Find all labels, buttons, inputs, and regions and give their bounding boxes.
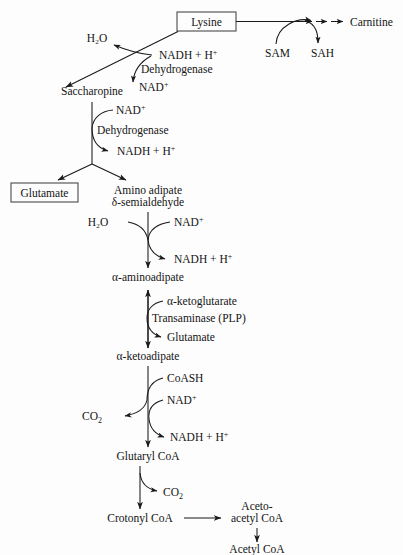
node-glutamate-box[interactable]: Glutamate bbox=[11, 183, 78, 202]
node-crotonyl-coa-label[interactable]: Crotonyl CoA bbox=[107, 512, 173, 525]
pathway-svg: Lysine Carnitine SAM SAH H₂O bbox=[0, 0, 403, 555]
cofactor-nad-2-label: NAD+ bbox=[116, 103, 146, 116]
cofactor-nad-1-label: NAD+ bbox=[139, 80, 169, 93]
cofactor-coash-label: CoASH bbox=[167, 372, 203, 384]
node-saccharopine-label[interactable]: Saccharopine bbox=[61, 85, 123, 98]
node-alpha-aminoadipate-label[interactable]: α-aminoadipate bbox=[112, 271, 184, 284]
node-lysine-label: Lysine bbox=[191, 16, 222, 29]
cofactor-curve-nadh-4-out bbox=[149, 419, 164, 437]
cofactor-curve-nad-3-in bbox=[148, 222, 170, 240]
cofactor-curve-nad-4-in bbox=[149, 400, 163, 419]
cofactor-curve-coash-in bbox=[147, 378, 163, 400]
cofactor-nadh-h-3-label: NADH + H+ bbox=[174, 252, 233, 265]
cofactor-nadh-h-2-label: NADH + H+ bbox=[117, 144, 176, 157]
cofactor-curve-co2-2-out bbox=[140, 473, 157, 491]
cofactor-h2o-2-label: H₂O bbox=[88, 216, 109, 228]
edge-branch-to-amino-adipate bbox=[92, 164, 126, 180]
pathway-diagram: Lysine Carnitine SAM SAH H₂O bbox=[0, 0, 403, 555]
cofactor-curve-sam-sah bbox=[276, 20, 318, 44]
cofactor-glutamate-product-label: Glutamate bbox=[167, 331, 215, 343]
cofactor-sam-label: SAM bbox=[265, 47, 290, 59]
cofactor-nadh-h-1-label: NADH + H+ bbox=[159, 48, 218, 61]
node-carnitine-label: Carnitine bbox=[350, 16, 393, 28]
node-acetyl-coa-label[interactable]: Acetyl CoA bbox=[229, 543, 285, 555]
cofactor-curve-co2-out bbox=[125, 400, 147, 416]
node-alpha-ketoadipate-label[interactable]: α-ketoadipate bbox=[117, 350, 180, 363]
enzyme-dehydrogenase-2-label: Dehydrogenase bbox=[97, 124, 169, 137]
enzyme-transaminase-label: Transaminase (PLP) bbox=[152, 312, 246, 325]
cofactor-curve-h2o-in bbox=[128, 222, 148, 240]
cofactor-curve-nadh-3-out bbox=[148, 240, 165, 259]
cofactor-h2o-1-label: H₂O bbox=[87, 32, 108, 44]
cofactor-nad-3-label: NAD+ bbox=[174, 215, 204, 228]
node-glutamate-box-label: Glutamate bbox=[21, 187, 69, 199]
cofactor-nadh-h-4-label: NADH + H+ bbox=[170, 430, 229, 443]
cofactor-co2-2-label: CO2 bbox=[163, 486, 183, 501]
cofactor-alpha-ketoglutarate-label: α-ketoglutarate bbox=[167, 295, 237, 308]
node-glutaryl-coa-label[interactable]: Glutaryl CoA bbox=[117, 450, 181, 463]
node-lysine[interactable]: Lysine bbox=[177, 12, 236, 31]
node-acetoacetyl-coa-line2[interactable]: acetyl CoA bbox=[231, 512, 284, 525]
edge-branch-to-glutamate bbox=[58, 164, 92, 180]
node-amino-adipate-line2[interactable]: δ-semialdehyde bbox=[112, 196, 184, 209]
cofactor-nad-4-label: NAD+ bbox=[167, 393, 197, 406]
cofactor-sah-label: SAH bbox=[311, 47, 334, 59]
node-acetoacetyl-coa-line1[interactable]: Aceto- bbox=[241, 500, 272, 512]
enzyme-dehydrogenase-1-label: Dehydrogenase bbox=[141, 63, 213, 76]
cofactor-co2-1-label: CO2 bbox=[82, 410, 102, 425]
